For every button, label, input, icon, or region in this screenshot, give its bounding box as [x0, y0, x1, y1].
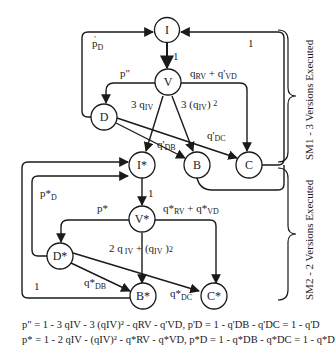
svg-text:D*: D* — [53, 249, 68, 263]
label-Dstar-Cstar: q*DC — [170, 287, 192, 302]
label-V-Istar: 3 qIV — [131, 98, 153, 112]
node-I: I — [155, 18, 180, 43]
label-V-D: p" — [120, 67, 130, 79]
label-D-B: q'DB — [157, 138, 176, 152]
label-Vstar-Cstar: q*RV + q*VD — [163, 202, 219, 216]
node-V: V — [155, 69, 181, 95]
brace-sm1 — [278, 30, 296, 162]
svg-text:B: B — [193, 158, 201, 172]
node-Dstar: D* — [47, 243, 73, 269]
label-C-I: 1 — [248, 37, 254, 49]
node-Cstar: C* — [201, 283, 227, 309]
svg-text:I: I — [165, 23, 169, 37]
label-D-I: pD' — [92, 35, 104, 52]
svg-text:I*: I* — [137, 158, 147, 172]
label-I-V: 1 — [173, 50, 179, 62]
node-Istar: I* — [129, 152, 155, 178]
node-D: D — [91, 104, 117, 130]
node-C: C — [236, 152, 262, 178]
svg-text:V*: V* — [135, 212, 150, 226]
brace-sm2 — [278, 168, 296, 300]
label-V-B: 3 (qIV) 2 — [181, 98, 217, 112]
node-Vstar: V* — [129, 206, 155, 232]
edge-Bstar-Istar — [22, 162, 130, 298]
node-B: B — [184, 152, 210, 178]
svg-text:V: V — [164, 75, 173, 89]
side-label-sm2: SM2 - 2 Versions Executed — [303, 179, 315, 300]
edge-D-B — [116, 123, 185, 158]
svg-text:B*: B* — [136, 289, 150, 303]
label-Vstar-Dstar: p* — [97, 202, 108, 214]
label-Istar-Vstar: 1 — [148, 187, 154, 199]
label-Dstar-Istar: p*D — [40, 187, 57, 202]
label-D-C: q'DC — [207, 129, 226, 143]
equation-line-1: p" = 1 - 3 qIV - 3 (qIV)² - qRV - q'VD, … — [22, 319, 320, 330]
label-V-C: qRV + q'VD — [190, 67, 237, 81]
label-Vstar-Bstar: 2 q IV + (qIV )2 — [109, 242, 173, 256]
svg-text:C: C — [245, 158, 253, 172]
node-Bstar: B* — [130, 283, 156, 309]
svg-text:D: D — [100, 110, 109, 124]
edge-Vstar-Dstar — [61, 220, 129, 242]
side-label-sm1: SM1 - 3 Versions Executed — [303, 39, 315, 160]
equation-line-2: p* = 1 - 2 qIV - (qIV)² - q*RV - q*VD, p… — [22, 334, 335, 345]
label-Bstar-Istar: 1 — [34, 280, 40, 292]
svg-text:C*: C* — [207, 289, 221, 303]
